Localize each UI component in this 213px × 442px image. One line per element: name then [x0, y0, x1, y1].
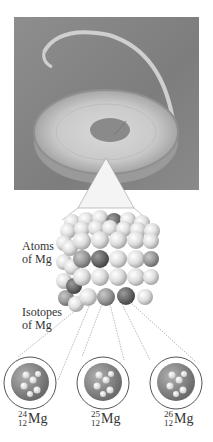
atomic-number: 12: [164, 418, 173, 428]
atomic-number: 12: [18, 418, 27, 428]
diagram-overlay: [0, 0, 213, 442]
atoms-label: Atoms of Mg: [22, 240, 54, 266]
isotope-label-mg24: 2412Mg: [18, 410, 47, 428]
atomic-number: 12: [91, 418, 100, 428]
isotope-label-mg25: 2512Mg: [91, 410, 120, 428]
element-symbol: Mg: [101, 411, 120, 426]
isotope-label-mg26: 2612Mg: [164, 410, 193, 428]
isotopes-label-line2: of Mg: [22, 319, 62, 332]
element-symbol: Mg: [174, 411, 193, 426]
element-symbol: Mg: [28, 411, 47, 426]
isotope-nucleus-26: [150, 357, 202, 409]
atoms-label-line2: of Mg: [22, 253, 54, 266]
atom-lattice-cube: [56, 210, 160, 312]
zoom-cone: [62, 158, 150, 222]
isotopes-label: Isotopes of Mg: [22, 306, 62, 332]
isotope-nucleus-24: [4, 357, 56, 409]
isotope-nucleus-25: [77, 357, 129, 409]
